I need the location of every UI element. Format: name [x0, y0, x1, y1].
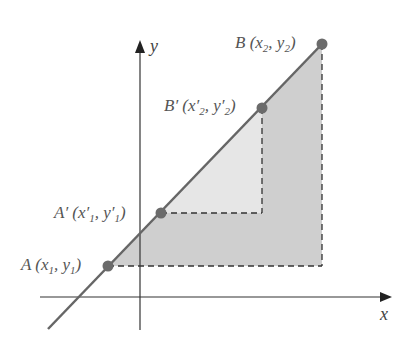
point-a-prime: [156, 208, 167, 219]
y-axis-label: y: [148, 36, 158, 56]
diagram-canvas: y x B (x2, y2) B′ (x′2, y′2) A′ (x′1, y′…: [0, 0, 405, 351]
label-a: A (x1, y1): [20, 255, 82, 276]
x-axis-arrow-icon: [380, 292, 392, 302]
label-b-prime: B′ (x′2, y′2): [164, 96, 236, 117]
label-b: B (x2, y2): [235, 33, 296, 54]
point-b-prime: [257, 103, 268, 114]
label-a-prime: A′ (x′1, y′1): [53, 203, 126, 224]
point-b: [317, 39, 328, 50]
coordinate-diagram: y x B (x2, y2) B′ (x′2, y′2) A′ (x′1, y′…: [0, 0, 405, 351]
x-axis-label: x: [379, 304, 388, 324]
point-a: [103, 261, 114, 272]
y-axis-arrow-icon: [135, 40, 145, 53]
